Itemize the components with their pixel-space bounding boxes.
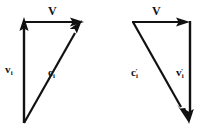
label-V-left: V bbox=[48, 2, 57, 18]
vector-v-i-prime bbox=[184, 21, 194, 124]
label-c-i-subscript: i bbox=[53, 72, 55, 80]
label-v-i-prime-prime-mark: ' bbox=[181, 67, 183, 75]
vector-v-i bbox=[19, 17, 28, 123]
label-c-i: ci bbox=[48, 63, 55, 80]
label-V-right-base: V bbox=[152, 4, 161, 18]
label-v-i-subscript: i bbox=[11, 69, 13, 77]
right-panel-group bbox=[132, 17, 194, 124]
label-v-i-prime: vi' bbox=[176, 63, 183, 80]
label-v-i-base: v bbox=[5, 63, 11, 75]
vector-V-right bbox=[132, 17, 190, 26]
label-c-i-prime: ci' bbox=[131, 63, 137, 80]
label-v-i: vi bbox=[5, 60, 13, 77]
label-V-left-base: V bbox=[48, 4, 57, 18]
vector-diagram-figure: V vi ci V ci' vi' bbox=[0, 0, 214, 134]
label-V-right: V bbox=[152, 2, 161, 18]
vector-c-i-prime-shaft bbox=[133, 22, 181, 107]
vector-V-left bbox=[23, 17, 84, 26]
